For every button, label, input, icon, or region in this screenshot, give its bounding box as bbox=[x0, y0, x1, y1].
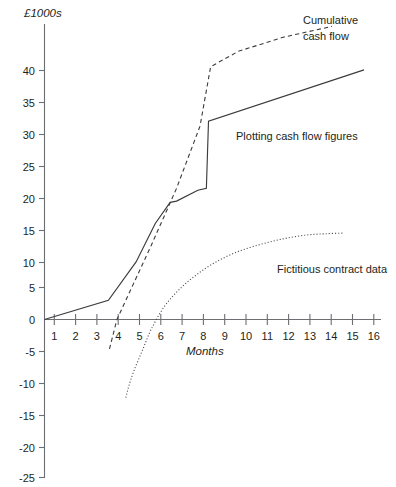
annotation-cumulative-line2: cash flow bbox=[303, 30, 349, 42]
x-tick-label: 15 bbox=[346, 330, 358, 342]
x-tick-label: 11 bbox=[262, 330, 273, 342]
y-tick-label: 15 bbox=[23, 225, 35, 237]
y-tick-label: 25 bbox=[23, 161, 35, 173]
x-tick-label: 10 bbox=[240, 330, 252, 342]
y-axis-title: £1000s bbox=[23, 7, 62, 19]
x-tick-label: 13 bbox=[304, 330, 316, 342]
x-tick-label: 2 bbox=[73, 330, 79, 342]
x-tick-label: 7 bbox=[179, 330, 185, 342]
y-tick-label: 35 bbox=[23, 97, 35, 109]
y-tick-label: -20 bbox=[19, 442, 35, 454]
annotation-cumulative-line1: Cumulative bbox=[303, 14, 358, 26]
y-tick-label: 0 bbox=[29, 314, 35, 326]
x-tick-label: 6 bbox=[158, 330, 164, 342]
chart-canvas: £1000s 40 35 30 25 20 15 10 5 0 -5 bbox=[0, 0, 396, 487]
y-axis-ticks: 40 35 30 25 20 15 10 5 0 -5 -10 -15 -20 bbox=[19, 65, 44, 484]
y-tick-label: -5 bbox=[25, 346, 35, 358]
y-tick-label: 5 bbox=[29, 282, 35, 294]
x-tick-label: 9 bbox=[222, 330, 228, 342]
x-tick-label: 1 bbox=[51, 330, 57, 342]
y-tick-label: 10 bbox=[23, 257, 35, 269]
series-cumulative-cash-flow bbox=[109, 26, 332, 349]
x-axis-ticks: 1 2 3 4 5 6 7 8 9 10 11 12 13 bbox=[51, 314, 380, 342]
x-tick-label: 5 bbox=[136, 330, 142, 342]
x-tick-label: 8 bbox=[200, 330, 206, 342]
x-tick-label: 12 bbox=[282, 330, 294, 342]
x-axis-title: Months bbox=[186, 345, 224, 357]
y-tick-label: -10 bbox=[19, 378, 35, 390]
x-tick-label: 4 bbox=[115, 330, 121, 342]
annotation-fictitious-contract-data: Fictitious contract data bbox=[277, 263, 388, 275]
y-tick-label: -15 bbox=[19, 410, 35, 422]
x-tick-label: 3 bbox=[94, 330, 100, 342]
x-tick-label: 16 bbox=[368, 330, 380, 342]
y-tick-label: 20 bbox=[23, 193, 35, 205]
y-tick-label: -25 bbox=[19, 472, 35, 484]
y-tick-label: 40 bbox=[23, 65, 35, 77]
annotation-plotting-cash-flow: Plotting cash flow figures bbox=[236, 130, 358, 142]
series-plotting-cash-flow-figures bbox=[45, 70, 365, 320]
cash-flow-chart: £1000s 40 35 30 25 20 15 10 5 0 -5 bbox=[0, 0, 396, 487]
x-tick-label: 14 bbox=[325, 330, 337, 342]
y-tick-label: 30 bbox=[23, 129, 35, 141]
